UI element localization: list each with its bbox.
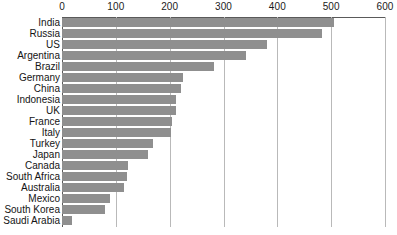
- category-label: Germany: [2, 72, 60, 83]
- bar-row: France: [0, 116, 397, 127]
- bar: [62, 139, 153, 148]
- bar-row: Turkey: [0, 138, 397, 149]
- category-label: India: [2, 17, 60, 28]
- bar-row: Russia: [0, 28, 397, 39]
- category-label: US: [2, 39, 60, 50]
- bar: [62, 73, 183, 82]
- bar: [62, 40, 267, 49]
- bar-row: Saudi Arabia: [0, 215, 397, 226]
- x-tick-label: 600: [377, 1, 394, 12]
- x-tick-label: 500: [323, 1, 340, 12]
- bar: [62, 205, 105, 214]
- bar-row: India: [0, 17, 397, 28]
- bar-row: Brazil: [0, 61, 397, 72]
- category-label: Indonesia: [2, 94, 60, 105]
- bar: [62, 216, 72, 225]
- bar-row: UK: [0, 105, 397, 116]
- bar-row: Japan: [0, 149, 397, 160]
- bar: [62, 106, 176, 115]
- bar: [62, 84, 181, 93]
- category-label: Japan: [2, 149, 60, 160]
- bar-row: South Korea: [0, 204, 397, 215]
- bar: [62, 161, 128, 170]
- x-tick-label: 300: [215, 1, 232, 12]
- x-axis-tick-labels: 0100200300400500600: [0, 0, 397, 16]
- category-label: Australia: [2, 182, 60, 193]
- bar: [62, 150, 148, 159]
- category-label: South Korea: [2, 204, 60, 215]
- category-label: Turkey: [2, 138, 60, 149]
- bar: [62, 117, 172, 126]
- category-label: South Africa: [2, 171, 60, 182]
- category-label: Brazil: [2, 61, 60, 72]
- bar-row: Australia: [0, 182, 397, 193]
- bar-row: China: [0, 83, 397, 94]
- category-label: Argentina: [2, 50, 60, 61]
- bar-chart: 0100200300400500600 IndiaRussiaUSArgenti…: [0, 0, 397, 235]
- category-label: Russia: [2, 28, 60, 39]
- category-label: UK: [2, 105, 60, 116]
- category-label: France: [2, 116, 60, 127]
- bar-row: Italy: [0, 127, 397, 138]
- bar: [62, 128, 171, 137]
- category-label: Saudi Arabia: [2, 215, 60, 226]
- bar: [62, 194, 110, 203]
- bar-row: US: [0, 39, 397, 50]
- bar: [62, 183, 124, 192]
- bar-rows: IndiaRussiaUSArgentinaBrazilGermanyChina…: [0, 17, 397, 226]
- bar: [62, 18, 334, 27]
- bar: [62, 95, 176, 104]
- category-label: Mexico: [2, 193, 60, 204]
- x-tick-label: 400: [269, 1, 286, 12]
- x-tick-label: 200: [161, 1, 178, 12]
- bar-row: Indonesia: [0, 94, 397, 105]
- x-tick-label: 100: [107, 1, 124, 12]
- category-label: Italy: [2, 127, 60, 138]
- category-label: Canada: [2, 160, 60, 171]
- x-tick-label: 0: [59, 1, 65, 12]
- bar-row: Canada: [0, 160, 397, 171]
- bar-row: Mexico: [0, 193, 397, 204]
- bar: [62, 29, 322, 38]
- bar: [62, 51, 246, 60]
- bar-row: South Africa: [0, 171, 397, 182]
- bar-row: Argentina: [0, 50, 397, 61]
- category-label: China: [2, 83, 60, 94]
- bar-row: Germany: [0, 72, 397, 83]
- bar: [62, 62, 214, 71]
- bar: [62, 172, 127, 181]
